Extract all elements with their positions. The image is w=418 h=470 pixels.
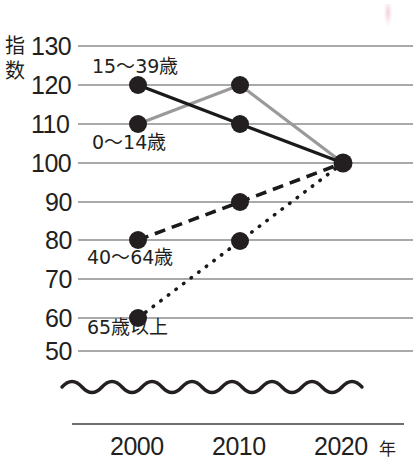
y-axis-title-char-1: 指 xyxy=(5,34,25,58)
axis-break-wave xyxy=(62,382,362,393)
x-tick-label-2020: 2020 xyxy=(314,432,368,460)
index-line-chart: 指 数 130 120 110 100 90 80 70 60 50 xyxy=(0,0,418,470)
y-axis-title-char-2: 数 xyxy=(5,59,25,83)
y-tick-label-50: 50 xyxy=(45,337,72,365)
y-tick-label-110: 110 xyxy=(31,110,69,138)
point-15-39-2000 xyxy=(129,76,147,94)
y-tick-label-120: 120 xyxy=(31,71,71,99)
point-convergence-2020 xyxy=(334,154,353,173)
y-tick-label-80: 80 xyxy=(45,226,72,254)
series-label-40-64: 40～64歳 xyxy=(87,246,173,268)
series-label-15-39: 15～39歳 xyxy=(92,55,178,77)
y-tick-label-130: 130 xyxy=(31,32,71,60)
point-0-14-2010 xyxy=(231,76,249,94)
y-tick-label-70: 70 xyxy=(45,265,72,293)
y-tick-label-60: 60 xyxy=(45,304,72,332)
chart-page: 指 数 130 120 110 100 90 80 70 60 50 xyxy=(0,0,418,470)
y-tick-label-90: 90 xyxy=(45,188,72,216)
y-tick-label-100: 100 xyxy=(31,149,71,177)
point-65-plus-2010 xyxy=(231,232,249,250)
x-tick-label-2000: 2000 xyxy=(110,432,164,460)
point-15-39-2010 xyxy=(231,115,249,133)
x-tick-label-2010: 2010 xyxy=(212,432,266,460)
series-label-0-14: 0～14歳 xyxy=(92,131,166,153)
x-axis-unit-label: 年 xyxy=(379,439,396,459)
series-label-65-plus: 65歳以上 xyxy=(87,316,168,338)
point-40-64-2010 xyxy=(231,193,249,211)
